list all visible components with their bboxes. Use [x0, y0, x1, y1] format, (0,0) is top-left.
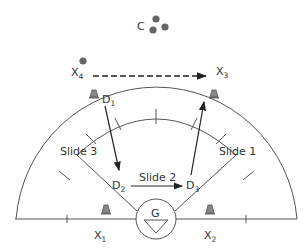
x4-label: X4 [71, 66, 84, 81]
hash-mark [243, 171, 254, 180]
cone-icon [205, 205, 215, 215]
coach-label: C [137, 20, 145, 33]
cone-icon [101, 205, 111, 215]
d2-label: D2 [112, 179, 125, 194]
cone-icon [89, 90, 99, 99]
cone-icon [209, 90, 219, 99]
inner-line-left [77, 155, 137, 211]
drill-diagram: C X4 X3 X1 X2 D1 D2 D3 G Slide 3 Slide 2… [0, 0, 306, 251]
ball-icon [79, 57, 86, 64]
slide1-label: Slide 1 [219, 145, 256, 158]
hash-mark [59, 171, 70, 180]
goalie-label: G [151, 207, 160, 220]
ball-icon [161, 23, 168, 30]
ball-icon [149, 26, 156, 33]
inner-line-right [175, 155, 236, 211]
slide3-label: Slide 3 [60, 145, 97, 158]
ball-icon [152, 15, 159, 22]
arrow-d1-to-d2 [105, 106, 119, 170]
inner-arc [77, 119, 236, 155]
tick-mark [86, 134, 96, 144]
arrow-d3-up [191, 102, 204, 175]
d3-label: D3 [186, 179, 199, 194]
x2-label: X2 [204, 229, 217, 244]
x1-label: X1 [94, 229, 107, 244]
slide2-label: Slide 2 [139, 171, 176, 184]
d1-label: D1 [102, 93, 115, 108]
x3-label: X3 [216, 65, 229, 80]
